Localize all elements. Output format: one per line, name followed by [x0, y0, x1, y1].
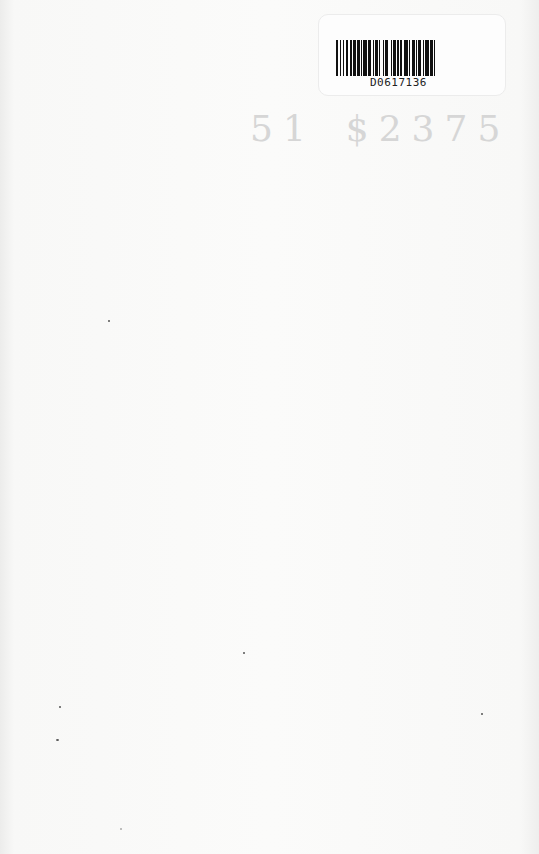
paper-speck — [108, 320, 110, 322]
paper-speck — [120, 828, 122, 830]
barcode-image — [336, 40, 476, 76]
paper-speck — [243, 652, 245, 654]
book-page: D0617136 51$2375 — [0, 0, 539, 854]
stamp-code: 51 — [250, 108, 316, 149]
price-stamp: 51$2375 — [250, 108, 510, 149]
barcode-number: D0617136 — [370, 76, 450, 89]
paper-speck — [481, 713, 483, 715]
stamp-price: $2375 — [346, 108, 511, 149]
paper-speck — [56, 739, 59, 741]
paper-speck — [59, 706, 61, 708]
